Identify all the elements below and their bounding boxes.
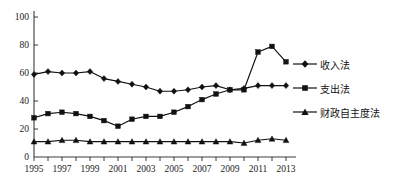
data-point bbox=[74, 111, 79, 116]
data-point bbox=[129, 81, 134, 87]
data-point bbox=[283, 83, 288, 89]
legend-label-income-method: 收入法 bbox=[318, 57, 350, 72]
x-axis: 1995199719992001200320052007200920112013 bbox=[25, 157, 297, 174]
data-point bbox=[269, 83, 274, 89]
triangle-marker-icon bbox=[292, 106, 318, 118]
x-tick-label: 2009 bbox=[221, 164, 240, 174]
data-point bbox=[214, 92, 219, 97]
legend-item-fiscal-autonomy-method[interactable]: 财政自主度法 bbox=[292, 100, 399, 124]
data-series bbox=[31, 136, 289, 146]
y-tick-label: 60 bbox=[20, 68, 30, 78]
data-point bbox=[172, 110, 177, 115]
diamond-marker-icon bbox=[292, 58, 318, 70]
x-tick-label: 2005 bbox=[165, 164, 184, 174]
data-point bbox=[255, 83, 260, 89]
y-tick-label: 0 bbox=[24, 152, 29, 162]
x-tick-label: 1995 bbox=[25, 164, 44, 174]
data-point bbox=[213, 83, 218, 89]
y-tick-label: 20 bbox=[20, 124, 30, 134]
data-point bbox=[199, 84, 204, 90]
data-point bbox=[87, 69, 92, 75]
x-tick-label: 2001 bbox=[109, 164, 128, 174]
data-point bbox=[157, 88, 162, 94]
chart-legend: 收入法 支出法 财政自主度法 bbox=[292, 52, 399, 124]
x-tick-label: 1997 bbox=[53, 164, 72, 174]
legend-item-income-method[interactable]: 收入法 bbox=[292, 52, 399, 76]
data-point bbox=[46, 111, 51, 116]
data-point bbox=[242, 88, 247, 93]
data-point bbox=[32, 116, 37, 121]
data-point bbox=[228, 88, 233, 93]
data-point bbox=[101, 76, 106, 82]
data-point bbox=[59, 70, 64, 76]
data-point bbox=[256, 50, 261, 55]
data-point bbox=[116, 124, 121, 129]
data-point bbox=[158, 114, 163, 119]
data-point bbox=[130, 117, 135, 122]
data-point bbox=[45, 69, 50, 75]
legend-label-fiscal-autonomy-method: 财政自主度法 bbox=[318, 105, 380, 120]
data-point bbox=[102, 118, 107, 123]
x-tick-label: 2003 bbox=[137, 164, 156, 174]
data-point bbox=[73, 70, 78, 76]
data-point bbox=[60, 110, 65, 115]
data-point bbox=[143, 84, 148, 90]
data-point bbox=[284, 60, 289, 65]
x-tick-label: 2011 bbox=[249, 164, 268, 174]
data-point bbox=[200, 97, 205, 102]
x-tick-label: 1999 bbox=[81, 164, 100, 174]
square-marker-icon bbox=[292, 82, 318, 94]
data-point bbox=[31, 71, 36, 77]
data-point bbox=[171, 88, 176, 94]
data-point bbox=[186, 104, 191, 109]
data-point bbox=[88, 114, 93, 119]
data-point bbox=[270, 44, 275, 49]
y-tick-label: 40 bbox=[20, 96, 30, 106]
data-series-group bbox=[31, 44, 289, 145]
legend-label-expenditure-method: 支出法 bbox=[318, 81, 350, 96]
data-point bbox=[144, 114, 149, 119]
y-tick-label: 80 bbox=[20, 40, 30, 50]
data-point bbox=[115, 78, 120, 84]
data-point bbox=[185, 87, 190, 93]
x-tick-label: 2013 bbox=[277, 164, 296, 174]
line-chart: 020406080100 199519971999200120032005200… bbox=[0, 0, 399, 181]
x-tick-label: 2007 bbox=[193, 164, 212, 174]
legend-item-expenditure-method[interactable]: 支出法 bbox=[292, 76, 399, 100]
y-tick-label: 100 bbox=[15, 12, 30, 22]
data-series bbox=[32, 44, 289, 128]
